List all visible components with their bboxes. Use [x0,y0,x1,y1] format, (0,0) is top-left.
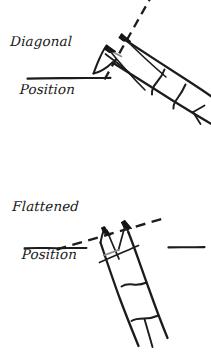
panel-label-diagonal-line2: Position [7,82,75,98]
panel-label-diagonal: Diagonal Position [6,2,80,129]
panel-label-flattened: Flattened Position [8,167,82,294]
panel-label-diagonal-line1: Diagonal [10,34,78,50]
panel-label-flattened-line1: Flattened [12,199,80,215]
figure-root: Diagonal Position Flattened Position [0,0,211,355]
panel-label-flattened-line2: Position [9,247,77,263]
